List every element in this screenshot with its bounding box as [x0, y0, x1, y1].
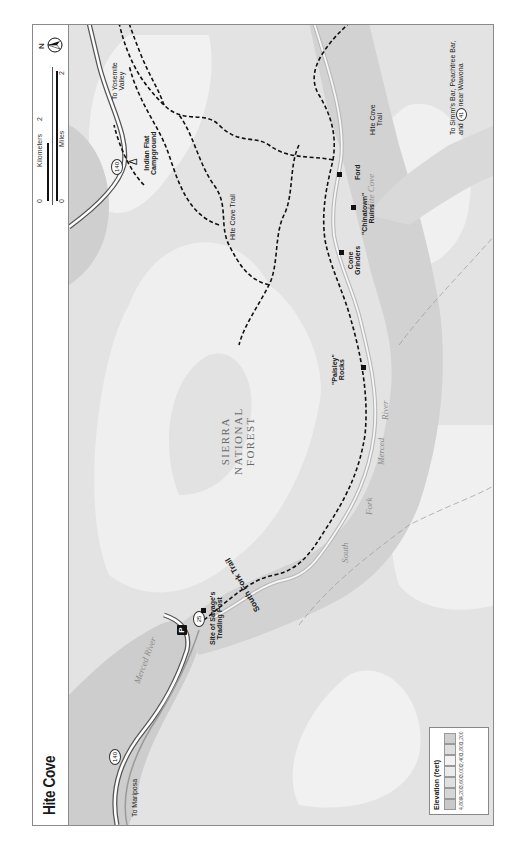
indian-flat-line-1: Indian Flat — [143, 131, 150, 175]
chinatown-line-2: Ruins — [368, 193, 375, 235]
legend-swatch-5 — [444, 755, 456, 766]
legend-swatch-4 — [444, 766, 456, 777]
legend-values: 4,800 4,200 3,600 3,000 2,400 1,800 1,20… — [458, 732, 464, 810]
mile-marker-25: 25 — [193, 611, 205, 627]
forest-line-2: NATIONAL — [232, 407, 245, 475]
hite-cove-trail-lower-line-2: Trail — [376, 104, 383, 135]
forest-line-3: FOREST — [244, 407, 257, 475]
label-chinatown-ruins: "Chinatown" Ruins — [361, 193, 376, 235]
legend-swatch-7 — [444, 733, 456, 744]
highway-140-shield-west: 140 — [109, 749, 121, 765]
label-ford: Ford — [354, 164, 361, 180]
savages-trading-post-marker — [201, 608, 206, 613]
parking-icon: P — [177, 625, 187, 635]
label-sierra-national-forest: SIERRA NATIONAL FOREST — [219, 407, 257, 475]
label-to-yosemite-valley: To Yosemite Valley — [111, 62, 126, 100]
scale-km-start: 0 — [36, 199, 43, 203]
highway-41-shield: 41 — [456, 108, 467, 121]
scale-km-end: 2 — [36, 117, 43, 121]
map-frame: Hite Cove 0 Kilometers 2 0 Miles 2 N — [32, 24, 494, 826]
elevation-legend: Elevation (feet) 4,800 4,200 3,600 3,000… — [429, 727, 489, 815]
label-to-simms-bar: To Simm's Bar, Peachtree Bar, and 41 nea… — [449, 40, 467, 135]
label-river-south: South — [341, 542, 350, 563]
label-cone-grinders: Cone Grinders — [347, 246, 362, 275]
scale-mi-start: 0 — [58, 199, 65, 203]
scale-km-bar — [47, 143, 49, 201]
label-indian-flat-campground: Indian Flat Campground — [143, 131, 158, 175]
scale-mi-label: Miles — [58, 131, 65, 147]
legend-value: 3,600 — [458, 777, 464, 788]
label-river-merced: Merced — [377, 438, 386, 465]
map-area: SIERRA NATIONAL FOREST To Yosemite Valle… — [69, 24, 494, 825]
legend-value: 4,200 — [458, 788, 464, 799]
campground-icon: Δ — [129, 158, 140, 165]
forest-line-1: SIERRA — [219, 407, 232, 475]
legend-value: 1,200 — [458, 733, 464, 744]
cone-line-2: Grinders — [354, 246, 361, 275]
paisley-line-1: "Paisley" — [331, 354, 338, 385]
paisley-rocks-marker — [361, 365, 366, 370]
map-header: Hite Cove 0 Kilometers 2 0 Miles 2 N — [33, 25, 69, 825]
to-simms-line-1: To Simm's Bar, Peachtree Bar, — [449, 40, 456, 135]
terrain-layer — [69, 24, 494, 825]
hite-cove-trail-lower-line-1: Hite Cove — [369, 104, 376, 135]
label-savages-trading-post: Site of Savage's Trading Post — [209, 592, 224, 645]
savage-line-1: Site of Savage's — [209, 592, 216, 645]
legend-swatch-1 — [444, 799, 456, 810]
legend-value: 2,400 — [458, 755, 464, 766]
label-paisley-rocks: "Paisley" Rocks — [331, 354, 346, 385]
scale-km-label: Kilometers — [36, 134, 43, 167]
label-to-mariposa: To Mariposa — [131, 779, 138, 817]
legend-title: Elevation (feet) — [433, 732, 440, 810]
legend-value: 1,800 — [458, 744, 464, 755]
ford-marker — [337, 172, 342, 177]
chinatown-ruins-marker — [351, 205, 356, 210]
north-arrow: N — [38, 33, 64, 57]
north-arrow-icon — [38, 33, 64, 57]
label-hite-cove-trail-upper: Hite Cove Trail — [229, 194, 236, 240]
chinatown-line-1: "Chinatown" — [361, 193, 368, 235]
scale-mi-end: 2 — [58, 71, 65, 75]
legend-value: 3,000 — [458, 766, 464, 777]
cone-grinders-marker — [339, 250, 344, 255]
indian-flat-line-2: Campground — [150, 131, 157, 175]
to-simms-line-2: and 41 near Wawona — [456, 40, 467, 135]
legend-swatches — [444, 732, 456, 810]
scale-divider — [52, 67, 53, 205]
legend-swatch-6 — [444, 744, 456, 755]
label-river-river: River — [381, 401, 390, 421]
to-simms-and: and — [457, 123, 464, 135]
map-title: Hite Cove — [40, 756, 60, 815]
to-simms-near-wawona: near Wawona — [457, 63, 464, 106]
paisley-line-2: Rocks — [338, 354, 345, 385]
savage-line-2: Trading Post — [216, 592, 223, 645]
to-yosemite-line-1: To Yosemite — [111, 62, 118, 100]
to-yosemite-line-2: Valley — [118, 62, 125, 100]
scale-bar: 0 Kilometers 2 0 Miles 2 — [36, 65, 66, 205]
legend-swatch-2 — [444, 788, 456, 799]
legend-value: 4,800 — [458, 799, 464, 810]
legend-swatch-3 — [444, 777, 456, 788]
highway-140-shield-east: 140 — [111, 159, 123, 175]
label-river-fork: Fork — [365, 498, 374, 516]
label-hite-cove-trail-lower: Hite Cove Trail — [369, 104, 384, 135]
cone-line-1: Cone — [347, 246, 354, 275]
